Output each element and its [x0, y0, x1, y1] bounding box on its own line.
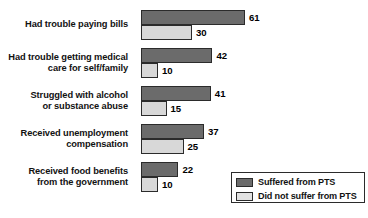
legend-swatch-dark-icon — [236, 178, 253, 187]
category-label-line: compensation — [66, 139, 128, 150]
bar-group: 42 10 — [141, 44, 368, 82]
bar-suffered — [141, 10, 245, 25]
bar-value-suffered: 61 — [249, 11, 260, 24]
chart-group: Had trouble getting medical care for sel… — [0, 44, 368, 82]
bar-value-not-suffered: 15 — [171, 102, 182, 115]
legend-swatch-light-icon — [236, 192, 253, 201]
category-label-line: Received unemployment — [21, 128, 128, 139]
bar-suffered — [141, 48, 212, 63]
chart-legend: Suffered from PTS Did not suffer from PT… — [231, 172, 365, 203]
grouped-bar-chart: Had trouble paying bills 61 30 Had troub… — [0, 0, 368, 218]
bar-not-suffered — [141, 25, 192, 40]
bar-value-not-suffered: 10 — [162, 178, 173, 191]
bar-suffered — [141, 86, 211, 101]
category-label: Received unemployment compensation — [0, 120, 134, 158]
bar-value-not-suffered: 25 — [188, 140, 199, 153]
legend-item-not-suffered: Did not suffer from PTS — [236, 190, 360, 202]
bar-group: 61 30 — [141, 6, 368, 44]
category-label-line: Had trouble getting medical — [8, 52, 128, 63]
bar-value-not-suffered: 30 — [196, 26, 207, 39]
category-label-line: care for self/family — [48, 63, 128, 74]
category-label: Had trouble getting medical care for sel… — [0, 44, 134, 82]
category-label: Had trouble paying bills — [0, 6, 134, 44]
chart-group: Had trouble paying bills 61 30 — [0, 6, 368, 44]
bar-value-suffered: 41 — [215, 87, 226, 100]
bar-suffered — [141, 162, 178, 177]
legend-label: Suffered from PTS — [258, 177, 335, 187]
bar-not-suffered — [141, 177, 158, 192]
bar-suffered — [141, 124, 204, 139]
legend-item-suffered: Suffered from PTS — [236, 176, 360, 188]
chart-group: Struggled with alcohol or substance abus… — [0, 82, 368, 120]
category-label: Struggled with alcohol or substance abus… — [0, 82, 134, 120]
legend-label: Did not suffer from PTS — [258, 191, 357, 201]
category-label-line: Had trouble paying bills — [25, 19, 128, 30]
category-label-line: Received food benefits — [28, 166, 128, 177]
chart-group: Received unemployment compensation 37 25 — [0, 120, 368, 158]
bar-not-suffered — [141, 101, 167, 116]
category-label-line: Struggled with alcohol — [31, 90, 128, 101]
bar-value-not-suffered: 10 — [162, 64, 173, 77]
category-label-line: from the government — [37, 177, 128, 188]
bar-not-suffered — [141, 139, 184, 154]
bar-value-suffered: 42 — [217, 49, 228, 62]
category-label: Received food benefits from the governme… — [0, 158, 134, 196]
bar-group: 41 15 — [141, 82, 368, 120]
bar-group: 37 25 — [141, 120, 368, 158]
bar-not-suffered — [141, 63, 158, 78]
bar-value-suffered: 37 — [208, 125, 219, 138]
category-label-line: or substance abuse — [42, 101, 128, 112]
bar-value-suffered: 22 — [183, 163, 194, 176]
